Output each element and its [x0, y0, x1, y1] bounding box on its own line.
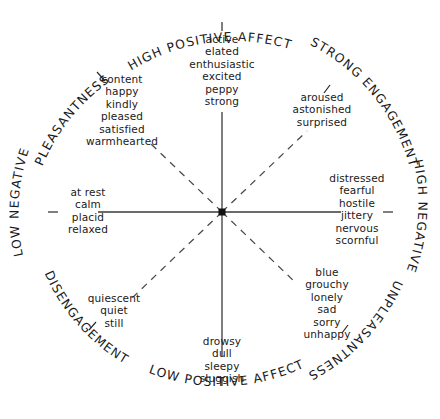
word-item: relaxed: [57, 223, 119, 235]
word-item: sluggish: [186, 372, 258, 384]
word-group-low-positive-affect: drowsy dull sleepy sluggish: [186, 335, 258, 385]
word-item: grouchy: [293, 278, 361, 290]
word-group-pleasantness: content happy kindly pleased satisfied w…: [76, 73, 168, 147]
word-item: quiescent: [78, 292, 150, 304]
word-item: excited: [160, 70, 284, 82]
word-group-strong-engagement: aroused astonished surprised: [276, 91, 368, 128]
word-item: scornful: [325, 234, 389, 246]
diagonal-sw-axis-line: [131, 212, 222, 299]
word-group-high-negative-affect: distressed fearful hostile jittery nervo…: [325, 172, 389, 246]
diagonal-nw-axis-line: [150, 143, 222, 212]
word-item: satisfied: [76, 123, 168, 135]
word-group-unpleasantness: blue grouchy lonely sad sorry unhappy: [293, 266, 361, 340]
word-item: at rest: [57, 186, 119, 198]
diagonal-se-axis-line: [222, 212, 297, 284]
word-group-disengagement: quiescent quiet still: [78, 292, 150, 329]
word-item: surprised: [276, 116, 368, 128]
word-item: aroused: [276, 91, 368, 103]
word-item: unhappy: [293, 328, 361, 340]
word-item: jittery: [325, 209, 389, 221]
word-item: quiet: [78, 304, 150, 316]
word-group-low-negative-affect: at rest calm placid relaxed: [57, 186, 119, 236]
word-item: distressed: [325, 172, 389, 184]
origin-marker: [219, 209, 226, 216]
word-item: sleepy: [186, 360, 258, 372]
word-item: still: [78, 317, 150, 329]
word-item: blue: [293, 266, 361, 278]
word-item: astonished: [276, 103, 368, 115]
word-item: dull: [186, 347, 258, 359]
word-item: content: [76, 73, 168, 85]
word-item: lonely: [293, 291, 361, 303]
word-item: peppy: [160, 83, 284, 95]
word-group-high-positive-affect: active elated enthusiastic excited peppy…: [160, 33, 284, 107]
word-item: hostile: [325, 197, 389, 209]
word-item: pleased: [76, 110, 168, 122]
word-item: enthusiastic: [160, 58, 284, 70]
word-item: drowsy: [186, 335, 258, 347]
word-item: happy: [76, 85, 168, 97]
word-item: nervous: [325, 222, 389, 234]
word-item: active: [160, 33, 284, 45]
word-item: fearful: [325, 184, 389, 196]
word-item: warmhearted: [76, 135, 168, 147]
diagonal-ne-axis-line: [222, 131, 307, 212]
word-item: strong: [160, 95, 284, 107]
word-item: calm: [57, 198, 119, 210]
word-item: sad: [293, 303, 361, 315]
word-item: elated: [160, 45, 284, 57]
circumplex-affect-diagram: HIGH POSITIVE AFFECT STRONG ENGAGEMENT H…: [0, 0, 440, 419]
word-item: placid: [57, 211, 119, 223]
word-item: kindly: [76, 98, 168, 110]
word-item: sorry: [293, 316, 361, 328]
